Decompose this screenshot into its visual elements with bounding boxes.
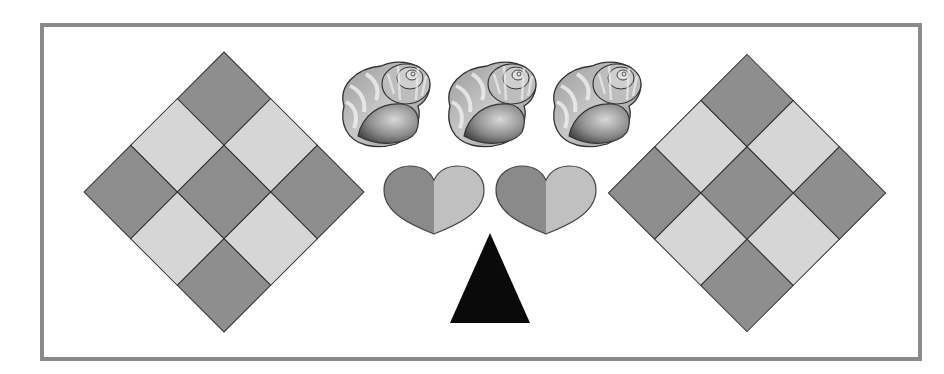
shell-icon [554, 62, 641, 146]
triangle-icon [450, 233, 530, 323]
puzzle-scene [0, 0, 944, 374]
right-diamond [608, 54, 885, 331]
heart-icon [384, 166, 484, 236]
left-diamond [84, 52, 364, 332]
shell-icon [449, 62, 536, 146]
shell-icon [343, 62, 430, 146]
heart-icon [496, 166, 596, 236]
